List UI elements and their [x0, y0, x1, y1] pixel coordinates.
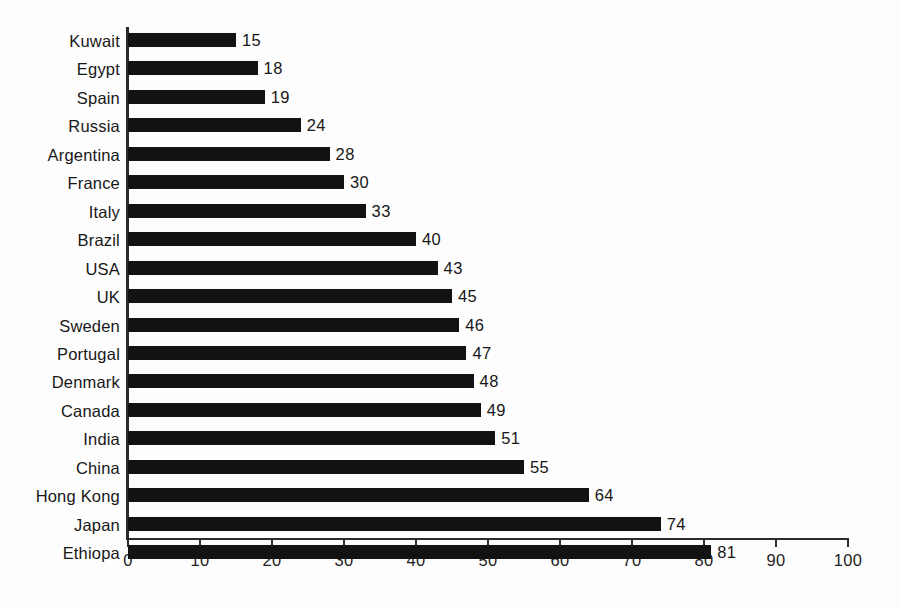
bar-value-label: 15: [242, 32, 261, 49]
bar-row: Hong Kong64: [0, 488, 901, 516]
bar: [128, 147, 330, 161]
category-label: China: [76, 460, 120, 476]
bar: [128, 118, 301, 132]
bar-row: Canada49: [0, 403, 901, 431]
bar: [128, 33, 236, 47]
bar: [128, 545, 711, 559]
category-label: Hong Kong: [36, 488, 120, 504]
bar: [128, 318, 459, 332]
bar-row: Portugal47: [0, 346, 901, 374]
bar-row: Argentina28: [0, 147, 901, 175]
bar-value-label: 24: [307, 117, 326, 134]
bar: [128, 374, 474, 388]
bar-value-label: 40: [422, 231, 441, 248]
bar-value-label: 81: [717, 544, 736, 561]
category-label: USA: [85, 261, 120, 277]
bar-value-label: 33: [372, 203, 391, 220]
bar: [128, 61, 258, 75]
bar-chart: 0102030405060708090100 Kuwait15Egypt18Sp…: [0, 0, 901, 608]
category-label: Portugal: [57, 346, 120, 362]
bar-value-label: 74: [667, 516, 686, 533]
category-label: Denmark: [52, 374, 120, 390]
category-label: UK: [97, 289, 120, 305]
bar-value-label: 30: [350, 174, 369, 191]
category-label: Kuwait: [69, 33, 120, 49]
bar-value-label: 49: [487, 402, 506, 419]
category-label: Italy: [89, 204, 120, 220]
category-label: Russia: [68, 118, 120, 134]
bar-value-label: 46: [465, 317, 484, 334]
category-label: Egypt: [77, 61, 120, 77]
bar-value-label: 55: [530, 459, 549, 476]
bar-row: Brazil40: [0, 232, 901, 260]
bar: [128, 232, 416, 246]
bar: [128, 175, 344, 189]
category-label: Sweden: [59, 318, 120, 334]
category-label: Japan: [74, 517, 120, 533]
bar-row: Kuwait15: [0, 33, 901, 61]
bar-value-label: 43: [444, 260, 463, 277]
bar-row: Spain19: [0, 90, 901, 118]
bar-value-label: 18: [264, 60, 283, 77]
bar-row: Russia24: [0, 118, 901, 146]
category-label: Ethiopa: [63, 545, 120, 561]
category-label: Argentina: [48, 147, 120, 163]
bar: [128, 346, 466, 360]
category-label: Brazil: [78, 232, 120, 248]
bar: [128, 517, 661, 531]
bar-row: Egypt18: [0, 61, 901, 89]
bar-value-label: 48: [480, 373, 499, 390]
bar: [128, 460, 524, 474]
bar: [128, 431, 495, 445]
bar: [128, 204, 366, 218]
bar-value-label: 51: [501, 430, 520, 447]
category-label: France: [67, 175, 120, 191]
bar-value-label: 47: [472, 345, 491, 362]
bar-value-label: 19: [271, 89, 290, 106]
bar-row: Denmark48: [0, 374, 901, 402]
bar: [128, 289, 452, 303]
bar-row: UK45: [0, 289, 901, 317]
category-label: Canada: [61, 403, 120, 419]
bar: [128, 488, 589, 502]
bar-row: Ethiopa81: [0, 545, 901, 573]
bar-value-label: 64: [595, 487, 614, 504]
bar-row: Japan74: [0, 517, 901, 545]
bar-row: USA43: [0, 261, 901, 289]
bar-row: Italy33: [0, 204, 901, 232]
bar-row: China55: [0, 460, 901, 488]
bar-value-label: 45: [458, 288, 477, 305]
plot-area: 0102030405060708090100 Kuwait15Egypt18Sp…: [0, 0, 901, 608]
bar-row: India51: [0, 431, 901, 459]
bar: [128, 403, 481, 417]
category-label: India: [83, 431, 120, 447]
bar-value-label: 28: [336, 146, 355, 163]
bar-row: Sweden46: [0, 318, 901, 346]
bar-row: France30: [0, 175, 901, 203]
category-label: Spain: [77, 90, 120, 106]
bar: [128, 261, 438, 275]
bar: [128, 90, 265, 104]
